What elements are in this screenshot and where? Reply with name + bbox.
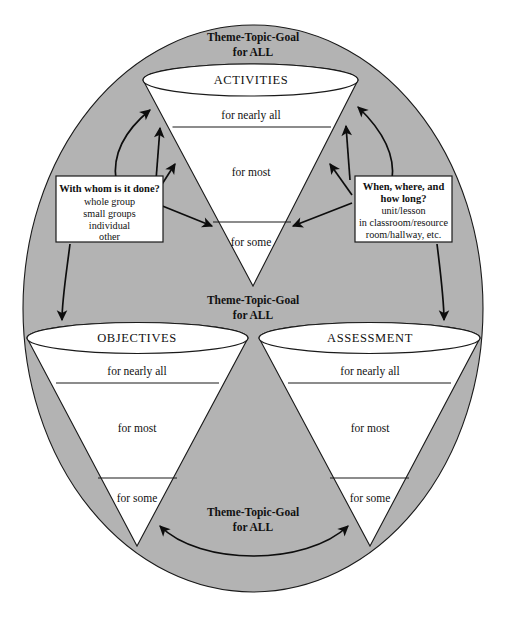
callout-when-title-line2: how long? bbox=[381, 193, 427, 204]
tier-objectives-nearly-all: for nearly all bbox=[107, 365, 166, 378]
funnel-label-objectives: OBJECTIVES bbox=[97, 331, 177, 345]
callout-who-line-4: other bbox=[99, 231, 121, 242]
callout-who-line-2: small groups bbox=[83, 208, 135, 219]
callout-who-line-3: individual bbox=[89, 220, 130, 231]
theme-top-line1: Theme-Topic-Goal bbox=[207, 31, 299, 44]
tier-assessment-nearly-all: for nearly all bbox=[340, 365, 399, 378]
callout-when-where[interactable]: When, where, and how long? unit/lesson i… bbox=[355, 176, 452, 242]
theme-bottom-line2: for ALL bbox=[233, 521, 274, 533]
funnel-label-assessment: ASSESSMENT bbox=[327, 331, 413, 345]
tier-assessment-most: for most bbox=[351, 422, 390, 434]
callout-when-title-line1: When, where, and bbox=[363, 181, 445, 192]
callout-who-line-1: whole group bbox=[84, 196, 135, 207]
tier-activities-most: for most bbox=[232, 166, 271, 178]
theme-middle-line1: Theme-Topic-Goal bbox=[207, 294, 299, 307]
callout-who-title: With whom is it done? bbox=[59, 183, 160, 194]
callout-when-line-3: room/hallway, etc. bbox=[366, 229, 441, 240]
callout-who[interactable]: With whom is it done? whole group small … bbox=[56, 176, 163, 242]
diagram-root: Theme-Topic-Goal for ALL Theme-Topic-Goa… bbox=[0, 0, 506, 619]
callout-when-line-1: unit/lesson bbox=[381, 205, 425, 216]
tier-objectives-some: for some bbox=[117, 492, 158, 504]
tier-assessment-some: for some bbox=[350, 492, 391, 504]
theme-top-line2: for ALL bbox=[233, 46, 274, 58]
funnel-label-activities: ACTIVITIES bbox=[214, 73, 289, 87]
tier-objectives-most: for most bbox=[118, 422, 157, 434]
tier-activities-some: for some bbox=[231, 236, 272, 248]
callout-when-line-2: in classroom/resource bbox=[359, 217, 449, 228]
theme-bottom-line1: Theme-Topic-Goal bbox=[207, 506, 299, 519]
theme-middle-line2: for ALL bbox=[233, 309, 274, 321]
tier-activities-nearly-all: for nearly all bbox=[221, 109, 280, 122]
triangle-funnel-diagram: Theme-Topic-Goal for ALL Theme-Topic-Goa… bbox=[0, 0, 506, 619]
